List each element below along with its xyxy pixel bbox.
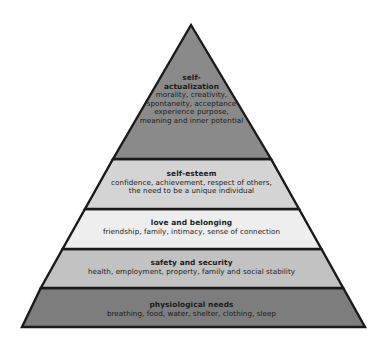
pyramid-shape-svg	[0, 0, 383, 352]
pyramid-tier-physiological-needs	[22, 288, 365, 327]
maslow-pyramid-diagram: self- actualization morality, creativity…	[0, 0, 383, 352]
pyramid-tier-self-esteem	[85, 159, 299, 209]
pyramid-tier-self-actualization	[113, 25, 271, 159]
pyramid-tier-safety-and-security	[41, 249, 343, 288]
pyramid-tier-love-and-belonging	[63, 209, 322, 249]
